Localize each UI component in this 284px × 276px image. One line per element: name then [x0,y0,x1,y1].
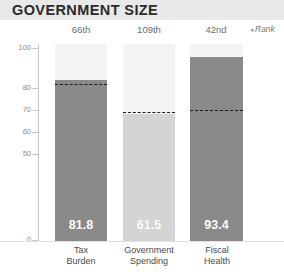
y-tick-label-70: 70 [23,105,31,115]
y-tick-50: 50 [10,149,38,159]
rank-legend: ◂Rank [250,24,275,34]
y-tick-mark-60 [32,132,38,133]
bar-value-government-spending: 61.5 [123,218,175,232]
y-tick-mark-50 [32,154,38,155]
reference-line-government-spending [123,112,175,113]
y-tick-mark-100 [32,48,38,49]
y-tick-label-0: 0 [27,235,31,245]
bar-value-fiscal-health: 93.4 [190,218,243,232]
left-caret-icon: ◂ [250,26,254,33]
y-tick-label-60: 60 [23,127,31,137]
category-label-fiscal-health-line1: Fiscal [177,245,257,256]
plot-area: 100 80 70 60 50 0 81.8 [0,42,284,242]
rank-value-fiscal-health: 42nd [186,24,246,35]
page-title: GOVERNMENT SIZE [12,2,158,18]
rank-value-government-spending: 109th [119,24,179,35]
rank-row: 66th 109th 42nd ◂Rank [0,24,284,38]
y-tick-label-80: 80 [23,83,31,93]
bar-value-tax-burden: 81.8 [55,218,107,232]
y-tick-mark-80 [32,88,38,89]
x-axis-baseline [0,241,284,242]
bar-fiscal-health[interactable] [190,57,243,242]
category-labels: Tax Burden Government Spending Fiscal He… [0,245,284,275]
reference-line-tax-burden [55,84,107,85]
y-tick-mark-70 [32,110,38,111]
rank-value-tax-burden: 66th [51,24,111,35]
y-tick-100: 100 [10,43,38,53]
y-tick-label-50: 50 [23,149,31,159]
y-tick-label-100: 100 [18,43,31,53]
chart-title-band: GOVERNMENT SIZE [0,0,284,20]
y-axis-line [38,44,39,242]
category-label-fiscal-health: Fiscal Health [177,245,257,267]
y-tick-0: 0 [10,235,38,245]
y-tick-70: 70 [10,105,38,115]
y-tick-80: 80 [10,83,38,93]
category-label-fiscal-health-line2: Health [177,256,257,267]
rank-legend-label: Rank [255,24,275,34]
government-size-chart: GOVERNMENT SIZE 66th 109th 42nd ◂Rank 10… [0,0,284,276]
y-tick-60: 60 [10,127,38,137]
reference-line-fiscal-health [190,110,243,111]
